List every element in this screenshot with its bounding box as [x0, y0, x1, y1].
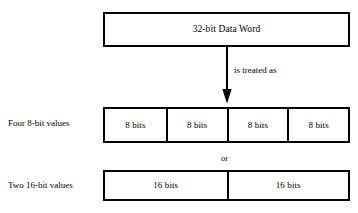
halfword-cell: 16 bits	[105, 172, 227, 199]
two-halfword-row-label: Two 16-bit values	[8, 181, 73, 190]
four-byte-row-label: Four 8-bit values	[8, 119, 70, 128]
diagram-canvas: 32-bit Data Word is treated as Four 8-bi…	[0, 0, 358, 213]
byte-cell: 8 bits	[105, 109, 166, 141]
byte-cell: 8 bits	[287, 109, 348, 141]
data-word-box: 32-bit Data Word	[103, 12, 350, 47]
halfword-cell: 16 bits	[227, 172, 349, 199]
arrow-caption: is treated as	[234, 66, 276, 75]
data-word-label: 32-bit Data Word	[105, 14, 348, 45]
or-separator-label: or	[221, 154, 228, 163]
four-byte-box: 8 bits 8 bits 8 bits 8 bits	[103, 107, 350, 143]
byte-cell: 8 bits	[166, 109, 227, 141]
byte-cell: 8 bits	[227, 109, 288, 141]
two-halfword-box: 16 bits 16 bits	[103, 170, 350, 201]
down-arrow-icon	[222, 46, 232, 104]
